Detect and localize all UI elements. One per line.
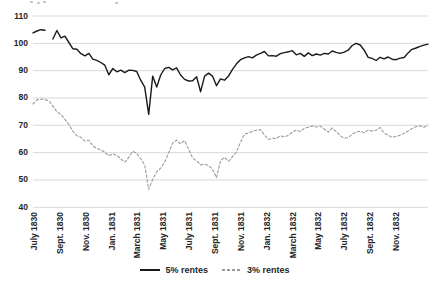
legend-item-5pct-rentes: 5% rentes [140,265,208,275]
y-tick-label: 50 [2,174,28,185]
x-tick-label: March 1831 [132,212,142,258]
x-tick-label: Nov. 1830 [81,212,91,251]
legend-label: 3% rentes [247,265,290,275]
y-tick-label: 110 [2,11,28,22]
x-tick-label: March 1832 [288,212,298,258]
dashed-line-swatch-icon [222,269,242,271]
chart-canvas: 110100908070605040 July 1830Sept. 1830No… [0,0,430,284]
legend-label: 5% rentes [165,265,208,275]
y-tick-label: 90 [2,65,28,76]
x-tick-label: July 1831 [184,212,194,250]
y-tick-label: 60 [2,147,28,158]
x-tick-label: Jan. 1832 [262,212,272,250]
x-tick-label: Sept. 1831 [210,212,220,254]
x-tick-label: July 1832 [339,212,349,250]
x-tick-label: Sept. 1832 [365,212,375,254]
solid-line-swatch-icon [140,269,160,271]
x-tick-label: May 1831 [158,212,168,250]
y-tick-label: 40 [2,202,28,213]
series-line-3-rentes [33,99,428,189]
legend: 5% rentes 3% rentes [0,262,430,278]
x-tick-label: Sept. 1830 [55,212,65,254]
x-tick-label: Nov. 1831 [236,212,246,251]
x-tick-label: July 1830 [29,212,39,250]
y-tick-label: 80 [2,92,28,103]
y-tick-label: 70 [2,120,28,131]
x-tick-label: Nov. 1832 [391,212,401,251]
series-line-5-rentes [33,30,45,33]
legend-item-3pct-rentes: 3% rentes [222,265,290,275]
x-tick-label: May 1832 [313,212,323,250]
y-tick-label: 100 [2,38,28,49]
x-tick-label: Jan. 1831 [107,212,117,250]
